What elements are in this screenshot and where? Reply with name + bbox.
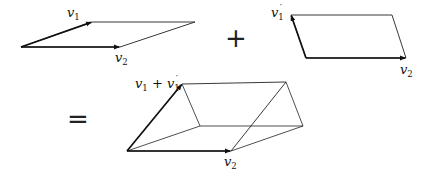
label-v2: v2	[400, 62, 413, 79]
vector-v1-plus-v1prime-arrow	[127, 85, 181, 151]
inner-edge-v1prime	[182, 84, 200, 126]
diagram-canvas: v1 v2 + v1′ v2 = v1 + v1′ v2	[0, 0, 434, 177]
plus-sign: +	[225, 23, 247, 53]
parallelogram-v1prime-v2: v1′ v2	[271, 3, 413, 79]
outer-edge-bottom	[231, 126, 303, 151]
shaded-region	[291, 15, 406, 58]
label-v1-plus-v1-prime: v1 + v1′	[135, 74, 180, 93]
label-v1: v1	[67, 5, 80, 22]
parallelogram-sum: v1 + v1′ v2	[127, 74, 303, 171]
parallelogram-sum-diagram: v1 v2 + v1′ v2 = v1 + v1′ v2	[0, 0, 434, 177]
label-v1-prime: v1′	[271, 3, 284, 22]
shaded-region	[21, 22, 195, 47]
vector-v1prime-arrow	[291, 16, 306, 58]
outer-edge-right	[286, 82, 303, 126]
shaded-region	[127, 82, 286, 151]
label-v2: v2	[115, 50, 128, 67]
equals-sign: =	[67, 104, 89, 134]
parallelogram-v1-v2: v1 v2	[21, 5, 195, 67]
vector-v1-arrow	[21, 22, 91, 47]
label-v2: v2	[224, 154, 237, 171]
